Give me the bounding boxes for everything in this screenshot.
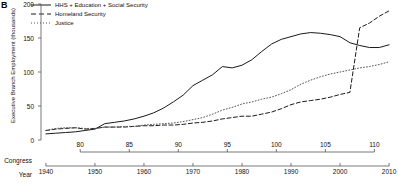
- y-tick-label: 150: [14, 35, 34, 42]
- y-tick-label: 200: [14, 1, 34, 8]
- figure-panel-b: B Executive Branch Employment (thousands…: [0, 0, 398, 187]
- congress-tick-label: 105: [313, 141, 337, 148]
- series-line: [46, 33, 389, 134]
- y-axis: [38, 4, 41, 140]
- year-tick-label: 1970: [181, 168, 205, 175]
- year-tick-label: 1990: [279, 168, 303, 175]
- year-axis-title: Year: [0, 171, 32, 178]
- year-axis: [46, 163, 389, 166]
- congress-axis-title: Congress: [0, 157, 32, 164]
- plot-area: [0, 0, 398, 187]
- congress-tick-label: 110: [362, 141, 386, 148]
- year-tick-label: 1960: [132, 168, 156, 175]
- y-tick-label: 50: [14, 103, 34, 110]
- congress-tick-label: 80: [68, 141, 92, 148]
- year-tick-label: 2000: [328, 168, 352, 175]
- congress-axis: [80, 149, 374, 152]
- congress-tick-label: 85: [117, 141, 141, 148]
- y-tick-label: 100: [14, 69, 34, 76]
- year-tick-label: 1980: [230, 168, 254, 175]
- data-series-group: [46, 11, 389, 134]
- year-tick-label: 2010: [377, 168, 398, 175]
- y-tick-label: 0: [14, 137, 34, 144]
- congress-tick-label: 100: [264, 141, 288, 148]
- year-tick-label: 1950: [83, 168, 107, 175]
- year-tick-label: 1940: [34, 168, 58, 175]
- congress-tick-label: 90: [166, 141, 190, 148]
- congress-tick-label: 95: [215, 141, 239, 148]
